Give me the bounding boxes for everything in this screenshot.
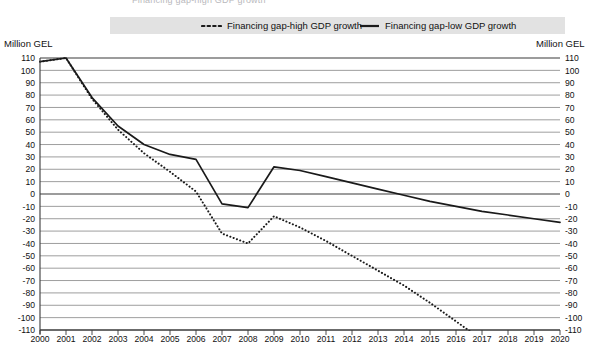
x-axis-label: 2002 — [82, 334, 101, 344]
svg-text:-90: -90 — [23, 300, 36, 310]
svg-text:-80: -80 — [565, 288, 578, 298]
x-axis-label: 2007 — [212, 334, 231, 344]
y-axis-left-caption: Million GEL — [4, 38, 53, 49]
x-axis-label: 2014 — [394, 334, 413, 344]
svg-text:90: 90 — [25, 78, 35, 88]
svg-text:70: 70 — [25, 103, 35, 113]
data-series — [40, 58, 560, 338]
svg-text:100: 100 — [21, 66, 36, 76]
svg-text:-30: -30 — [23, 226, 36, 236]
svg-text:-70: -70 — [565, 276, 578, 286]
svg-text:80: 80 — [25, 90, 35, 100]
svg-text:-40: -40 — [23, 239, 36, 249]
x-axis-label: 2017 — [472, 334, 491, 344]
x-axis-label: 2010 — [290, 334, 309, 344]
x-axis-label: 2004 — [134, 334, 153, 344]
svg-text:50: 50 — [25, 127, 35, 137]
svg-text:110: 110 — [21, 53, 35, 63]
y-axis-left-ticks: 1101009080706050403020100-10-20-30-40-50… — [18, 53, 35, 335]
svg-text:-50: -50 — [565, 251, 578, 261]
svg-text:-10: -10 — [565, 202, 578, 212]
svg-text:-100: -100 — [565, 313, 582, 323]
svg-text:90: 90 — [565, 78, 575, 88]
legend-label-low-gdp-growth: Financing gap-low GDP growth — [385, 20, 516, 31]
x-axis-label: 2009 — [264, 334, 283, 344]
svg-text:-50: -50 — [23, 251, 36, 261]
x-axis-label: 2003 — [108, 334, 127, 344]
gridlines — [40, 58, 560, 330]
svg-text:-60: -60 — [565, 263, 578, 273]
svg-text:100: 100 — [565, 66, 580, 76]
chart-legend: Financing gap-high GDP growth Financing … — [110, 17, 565, 34]
svg-text:0: 0 — [30, 189, 35, 199]
svg-text:80: 80 — [565, 90, 575, 100]
svg-text:50: 50 — [565, 127, 575, 137]
line-chart: 1101009080706050403020100-10-20-30-40-50… — [0, 50, 603, 340]
svg-text:-40: -40 — [565, 239, 578, 249]
svg-text:-30: -30 — [565, 226, 578, 236]
x-axis-label: 2015 — [420, 334, 439, 344]
x-axis-label: 2013 — [368, 334, 387, 344]
legend-item-low-gdp-growth[interactable]: Financing gap-low GDP growth — [359, 17, 516, 34]
svg-text:40: 40 — [25, 140, 35, 150]
svg-text:0: 0 — [565, 189, 570, 199]
svg-text:70: 70 — [565, 103, 575, 113]
svg-text:10: 10 — [25, 177, 35, 187]
svg-text:20: 20 — [25, 164, 35, 174]
dotted-line-swatch-icon — [201, 22, 222, 30]
chart-page: Financing gap-high GDP growth Financing … — [0, 0, 603, 355]
legend-label-high-gdp-growth: Financing gap-high GDP growth — [227, 20, 362, 31]
clipped-top-text: Financing gap-high GDP growth — [132, 0, 432, 7]
svg-text:-80: -80 — [23, 288, 36, 298]
x-axis-label: 2001 — [56, 334, 75, 344]
y-axis-right-ticks: 1101009080706050403020100-10-20-30-40-50… — [565, 53, 582, 335]
svg-text:110: 110 — [565, 53, 579, 63]
x-axis-label: 2000 — [30, 334, 49, 344]
x-axis-label: 2020 — [550, 334, 569, 344]
svg-text:-100: -100 — [18, 313, 35, 323]
x-axis-label: 2006 — [186, 334, 205, 344]
legend-item-high-gdp-growth[interactable]: Financing gap-high GDP growth — [201, 17, 362, 34]
x-axis-label: 2012 — [342, 334, 361, 344]
x-axis-label: 2008 — [238, 334, 257, 344]
svg-text:-20: -20 — [23, 214, 36, 224]
svg-text:30: 30 — [25, 152, 35, 162]
y-axis-right-caption: Million GEL — [536, 38, 585, 49]
x-axis-label: 2005 — [160, 334, 179, 344]
svg-text:10: 10 — [565, 177, 575, 187]
x-axis-labels: 2000200120022003200420052006200720082009… — [0, 334, 603, 350]
svg-text:20: 20 — [565, 164, 575, 174]
x-axis-label: 2019 — [524, 334, 543, 344]
svg-text:-20: -20 — [565, 214, 578, 224]
svg-text:60: 60 — [565, 115, 575, 125]
solid-line-swatch-icon — [359, 22, 380, 30]
svg-text:60: 60 — [25, 115, 35, 125]
x-axis-label: 2011 — [317, 334, 335, 344]
svg-text:-60: -60 — [23, 263, 36, 273]
svg-text:-70: -70 — [23, 276, 36, 286]
svg-text:-90: -90 — [565, 300, 578, 310]
svg-text:30: 30 — [565, 152, 575, 162]
svg-text:-10: -10 — [23, 202, 36, 212]
x-axis-label: 2016 — [446, 334, 465, 344]
x-axis-label: 2018 — [498, 334, 517, 344]
svg-text:40: 40 — [565, 140, 575, 150]
